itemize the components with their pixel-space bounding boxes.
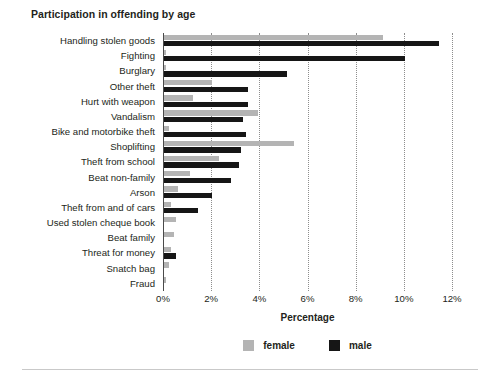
legend-label: male (349, 340, 372, 351)
value-tick-label: 10% (394, 293, 413, 304)
bar-male (164, 41, 439, 46)
bar-male (164, 178, 231, 183)
value-axis-tick-labels: 0%2%4%6%8%10%12% (163, 293, 452, 309)
bar-group (163, 154, 452, 170)
bar-group (163, 79, 452, 95)
value-tick-label: 2% (204, 293, 218, 304)
bar-female (164, 80, 212, 85)
bar-female (164, 110, 258, 115)
bar-group (163, 139, 452, 155)
category-label: Snatch bag (106, 261, 155, 277)
chart-figure: Participation in offending by age Handli… (0, 0, 492, 381)
footer-divider (22, 369, 478, 370)
category-label: Handling stolen goods (60, 33, 155, 49)
legend-label: female (263, 340, 295, 351)
bar-male (164, 132, 246, 137)
bar-female (164, 65, 166, 70)
legend-swatch-male (329, 340, 340, 351)
bar-female (164, 156, 219, 161)
bar-group (163, 261, 452, 277)
bar-group (163, 109, 452, 125)
x-axis-title: Percentage (163, 312, 452, 323)
category-label: Arson (130, 185, 155, 201)
gridline (452, 33, 453, 291)
category-axis-labels: Handling stolen goodsFightingBurglaryOth… (18, 33, 160, 291)
bar-female (164, 141, 294, 146)
value-tick-label: 0% (156, 293, 170, 304)
legend-swatch-female (243, 340, 254, 351)
bar-female (164, 277, 166, 282)
bar-female (164, 50, 166, 55)
category-label: Hurt with weapon (81, 94, 155, 110)
bar-male (164, 147, 241, 152)
bar-male (164, 102, 248, 107)
legend-entry-male[interactable]: male (329, 340, 372, 351)
legend-entry-female[interactable]: female (243, 340, 295, 351)
bar-female (164, 262, 169, 267)
bar-female (164, 35, 383, 40)
bar-female (164, 217, 176, 222)
bar-group (163, 230, 452, 246)
value-tick-label: 6% (301, 293, 315, 304)
bar-group (163, 63, 452, 79)
bar-female (164, 126, 169, 131)
bar-group (163, 200, 452, 216)
bar-group (163, 124, 452, 140)
plot-area (163, 33, 452, 291)
bar-group (163, 170, 452, 186)
bar-male (164, 253, 176, 258)
chart-title: Participation in offending by age (31, 8, 195, 20)
category-label: Beat non-family (88, 170, 155, 186)
category-label: Shoplifting (110, 139, 155, 155)
bar-female (164, 232, 174, 237)
category-label: Bike and motorbike theft (52, 124, 155, 140)
bar-group (163, 94, 452, 110)
bar-female (164, 247, 171, 252)
bar-male (164, 71, 287, 76)
bar-female (164, 202, 171, 207)
bar-male (164, 208, 198, 213)
chart-legend: femalemale (163, 336, 452, 354)
category-label: Burglary (119, 63, 155, 79)
category-label: Other theft (110, 79, 155, 95)
bar-group (163, 276, 452, 292)
category-label: Theft from school (81, 154, 155, 170)
bar-female (164, 171, 190, 176)
category-label: Used stolen cheque book (47, 215, 155, 231)
bar-male (164, 193, 212, 198)
category-label: Theft from and of cars (61, 200, 155, 216)
bar-male (164, 87, 248, 92)
bar-male (164, 117, 243, 122)
category-label: Vandalism (111, 109, 155, 125)
value-tick-label: 4% (252, 293, 266, 304)
value-tick-label: 12% (442, 293, 461, 304)
bar-group (163, 33, 452, 49)
category-label: Beat family (108, 230, 155, 246)
value-tick-label: 8% (349, 293, 363, 304)
bar-male (164, 162, 239, 167)
category-label: Fraud (130, 276, 155, 292)
bar-male (164, 56, 405, 61)
bar-group (163, 48, 452, 64)
bar-female (164, 186, 178, 191)
bar-group (163, 245, 452, 261)
bar-female (164, 95, 193, 100)
bar-group (163, 215, 452, 231)
category-label: Fighting (121, 48, 155, 64)
bar-group (163, 185, 452, 201)
category-label: Threat for money (82, 245, 155, 261)
